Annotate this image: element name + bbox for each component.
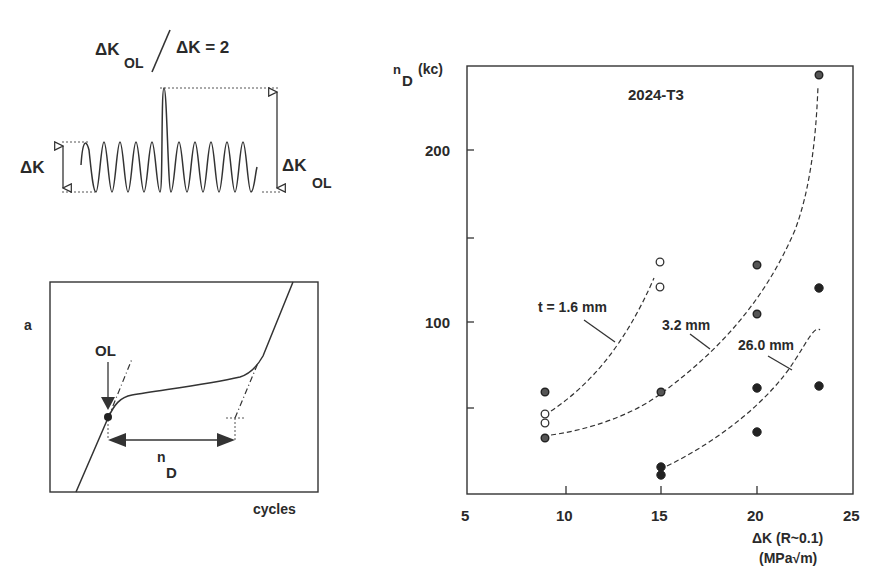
delay-chart: n D (kc) 200 100 5 10 15 20 25 ΔK (R~0.1… [393,61,860,566]
delay-label-sub: D [166,464,177,481]
delta-k-label: ΔK [20,158,45,177]
series-1.6mm-points [541,258,664,427]
y-tick-200: 200 [425,142,450,159]
x-axis-label: ΔK (R~0.1) [752,530,823,546]
load-waveform [81,88,257,192]
x-axis-units: (MPa√m) [759,550,817,566]
y-axis [467,150,474,408]
curve-label-26mm: 26.0 mm [738,337,794,353]
y-axis-label: n [393,62,401,77]
ratio-numerator-sub: OL [124,55,144,71]
crack-length-axis-label: a [24,317,32,333]
y-axis-label-sub: D [402,72,413,89]
delta-k-ol-label: ΔK [282,156,307,175]
ratio-slash [152,30,170,72]
x-tick-15: 15 [651,507,668,524]
x-tick-20: 20 [747,507,764,524]
x-tick-10: 10 [556,507,573,524]
x-axis [566,486,757,494]
cycles-axis-label: cycles [253,501,296,517]
delay-arrow-left-icon [108,433,126,447]
crack-growth-schematic: a cycles OL n D [24,282,318,517]
series-3.2mm-points [541,71,823,442]
ratio-numerator: ΔK [95,40,120,59]
plot-frame [467,66,853,494]
delay-arrow-right-icon [217,433,235,447]
x-tick-25: 25 [843,507,860,524]
y-axis-units: (kc) [418,61,443,77]
fit-curve-1.6mm [551,278,654,411]
overload-point [104,413,112,421]
delta-k-ol-sub: OL [312,175,332,191]
overload-label: OL [95,342,116,359]
series-26mm-points [657,284,823,479]
chart-title: 2024-T3 [628,86,684,103]
x-tick-5: 5 [461,507,469,524]
delay-label: n [157,449,166,465]
y-tick-100: 100 [425,314,450,331]
ratio-denominator: ΔK = 2 [176,38,229,57]
curve-label-1.6mm: t = 1.6 mm [538,299,607,315]
figure: ΔK OL ΔK = 2 ΔK ΔK OL a cycles O [0,0,879,580]
curve-label-3.2mm: 3.2 mm [662,317,710,333]
load-sequence-schematic: ΔK OL ΔK = 2 ΔK ΔK OL [20,30,332,192]
